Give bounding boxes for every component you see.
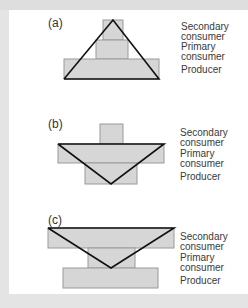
pyramid-c [48,228,174,288]
pyramid-c-producer-block [63,268,158,288]
panel-c-secondary-label: Secondary consumer [180,232,228,252]
panel-b-primary-label: Primary consumer [180,149,224,169]
panel-a-secondary-label: Secondary consumer [181,22,229,42]
panel-b-label: (b) [48,118,63,130]
pyramid-b-secondary-block [100,124,123,144]
panel-c-label: (c) [48,214,62,226]
pyramid-c-secondary-block [48,228,174,248]
primary-line2: consumer [180,159,224,169]
primary-line2: consumer [181,52,225,62]
pyramid-b-producer-block [85,163,137,184]
panel-c-primary-label: Primary consumer [180,253,224,273]
primary-line2: consumer [180,263,224,273]
secondary-line2: consumer [180,242,228,252]
panel-a-primary-label: Primary consumer [181,42,225,62]
panel-b-secondary-label: Secondary consumer [180,128,228,148]
panel-a-label: (a) [48,17,63,29]
panel-c-producer-label: Producer [180,276,221,286]
pyramid-a [64,20,159,79]
pyramid-b-primary-block [58,144,164,163]
pyramid-a-primary-block [96,40,128,59]
panel-a-producer-label: Producer [181,65,222,75]
secondary-line2: consumer [180,138,228,148]
pyramid-b [58,124,164,184]
panel-b-producer-label: Producer [180,172,221,182]
